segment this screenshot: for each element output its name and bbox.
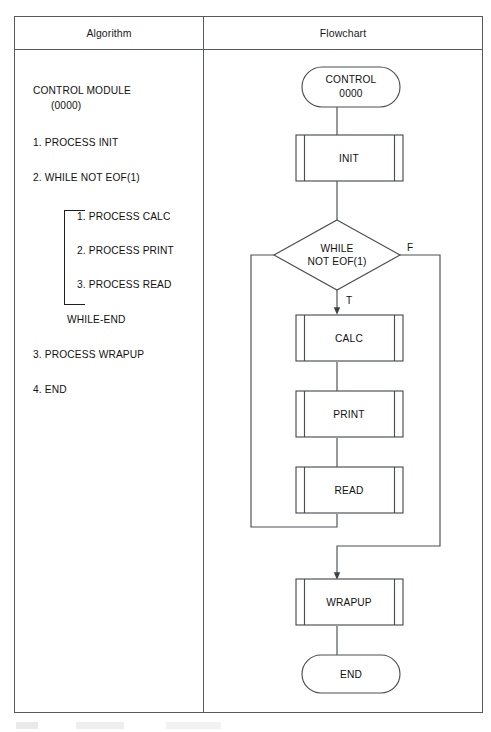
flowchart-svg: CONTROL 0000 INIT WHILE NOT EOF(1) T F [203,49,483,714]
node-wrapup[interactable]: WRAPUP [296,579,403,625]
edge-label-true: T [346,295,352,306]
node-read-label: READ [335,485,364,496]
node-while[interactable]: WHILE NOT EOF(1) [274,220,400,290]
algorithm-step-2-3: 3. PROCESS READ [77,279,172,290]
column-header-flowchart: Flowchart [203,17,483,49]
flowchart-pane: CONTROL 0000 INIT WHILE NOT EOF(1) T F [203,49,483,714]
node-wrapup-label: WRAPUP [326,597,372,608]
algorithm-module-title: CONTROL MODULE [33,85,131,96]
figure-frame: Algorithm Flowchart CONTROL MODULE (0000… [14,16,483,713]
algorithm-step-4: 4. END [33,384,67,395]
node-while-line1: WHILE [320,243,353,254]
node-end-label: END [340,669,362,680]
algorithm-module-id: (0000) [51,100,81,111]
node-start[interactable]: CONTROL 0000 [302,67,400,107]
edge-label-false: F [407,242,413,253]
algorithm-pane: CONTROL MODULE (0000) 1. PROCESS INIT 2.… [15,49,203,714]
node-end[interactable]: END [302,655,400,693]
node-read[interactable]: READ [296,467,403,513]
node-start-line2: 0000 [339,88,362,99]
scan-artifact [16,722,346,729]
node-init-label: INIT [339,153,359,164]
node-init[interactable]: INIT [296,135,403,181]
algorithm-while-end: WHILE-END [67,314,126,325]
node-calc-label: CALC [335,333,363,344]
column-header-algorithm: Algorithm [15,17,203,49]
node-print[interactable]: PRINT [296,391,403,437]
node-print-label: PRINT [333,409,364,420]
node-calc[interactable]: CALC [296,315,403,361]
algorithm-step-1: 1. PROCESS INIT [33,137,118,148]
algorithm-step-3: 3. PROCESS WRAPUP [33,349,144,360]
algorithm-loop-bracket [64,210,85,305]
algorithm-step-2-2: 2. PROCESS PRINT [77,245,174,256]
node-while-line2: NOT EOF(1) [307,256,366,267]
algorithm-step-2-1: 1. PROCESS CALC [77,211,170,222]
algorithm-step-2: 2. WHILE NOT EOF(1) [33,172,140,183]
node-start-line1: CONTROL [326,74,377,85]
